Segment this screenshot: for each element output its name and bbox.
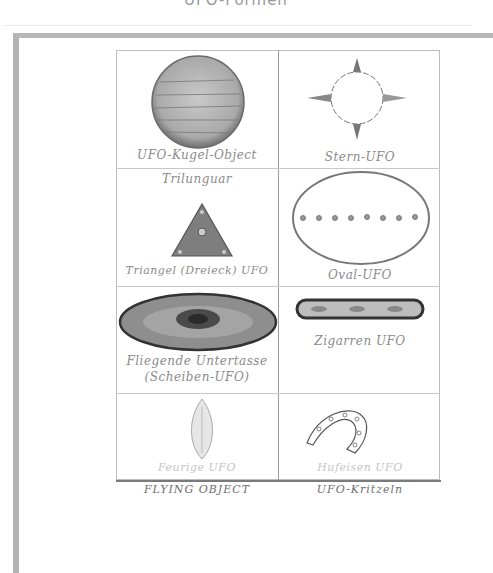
cell-label: Hufeisen UFO	[279, 461, 441, 474]
cell-oval-ufo: Oval-UFO	[279, 168, 441, 286]
cell-zigarren-ufo: Zigarren UFO	[279, 286, 441, 393]
ufo-drawing-sheet: UFO-Kugel-Object Stern-UFO Trilunguar Tr…	[116, 50, 441, 510]
cell-label: UFO-Kugel-Object	[116, 148, 278, 162]
cell-kugel-ufo: UFO-Kugel-Object	[116, 50, 278, 168]
cell-scheiben-ufo: Fliegende Untertasse (Scheiben-UFO)	[116, 286, 278, 393]
cell-label: Fliegende Untertasse	[116, 354, 278, 368]
divider	[4, 25, 472, 26]
cell-hufeisen-ufo: Hufeisen UFO	[279, 393, 441, 480]
cell-stern-ufo: Stern-UFO	[279, 50, 441, 168]
cell-label-secondary: (Scheiben-UFO)	[116, 370, 278, 384]
cell-label: Triangel (Dreieck) UFO	[116, 264, 278, 277]
cell-label: Stern-UFO	[279, 150, 441, 164]
footer-label-right: UFO-Kritzeln	[279, 483, 441, 496]
cell-label: Feurige UFO	[116, 461, 278, 474]
cell-triangel-ufo: Trilunguar Triangel (Dreieck) UFO	[116, 168, 278, 286]
footer-label-left: FLYING OBJECT	[116, 483, 278, 496]
cell-feuer-ufo: Feurige UFO	[116, 393, 278, 480]
page-title: UFO-Formen	[0, 0, 472, 9]
cell-label: Zigarren UFO	[279, 334, 441, 348]
cell-label: Oval-UFO	[279, 268, 441, 282]
grid-bottom-line	[116, 480, 441, 482]
